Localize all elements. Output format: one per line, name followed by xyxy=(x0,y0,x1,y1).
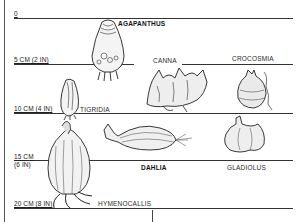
planting-depth-diagram: 0 5 CM (2 IN) 10 CM (4 IN) 15 CM (6 IN) … xyxy=(0,0,305,222)
bottom-tick xyxy=(152,210,153,222)
agapanthus-bulb-illustration xyxy=(90,18,126,84)
dahlia-tuber-illustration xyxy=(100,122,196,156)
tigridia-bulb-illustration xyxy=(58,78,82,120)
label-dahlia: DAHLIA xyxy=(141,164,167,171)
depth-label-0: 0 xyxy=(14,10,18,17)
label-hymenocallis: HYMENOCALLIS xyxy=(98,200,151,207)
label-canna: CANNA xyxy=(153,57,177,64)
depth-line-0 xyxy=(14,18,293,19)
hymenocallis-bulb-illustration xyxy=(44,116,94,212)
depth-label-6in: (6 IN) xyxy=(14,161,31,168)
label-gladiolus: GLADIOLUS xyxy=(227,164,266,171)
depth-label-15cm: 15 CM xyxy=(14,153,34,160)
label-tigridia: TIGRIDIA xyxy=(80,106,110,113)
depth-label-5cm: 5 CM (2 IN) xyxy=(14,56,49,63)
label-crocosmia: CROCOSMIA xyxy=(232,55,274,62)
depth-label-10cm: 10 CM (4 IN) xyxy=(14,105,52,112)
gladiolus-corm-illustration xyxy=(222,114,268,156)
left-border xyxy=(4,0,5,222)
crocosmia-corm-illustration xyxy=(234,66,274,114)
canna-rhizome-illustration xyxy=(143,64,213,114)
